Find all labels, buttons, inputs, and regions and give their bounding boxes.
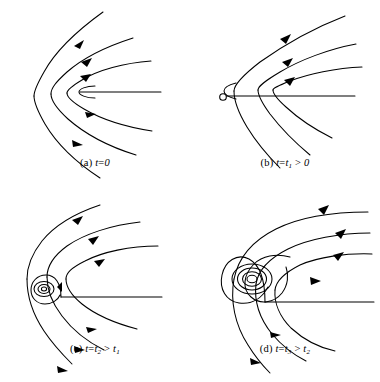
streamline-figure: (a) t=0 (b)	[0, 0, 380, 382]
panel-b-label: (b)	[261, 157, 274, 168]
streamline-outer-upper	[27, 205, 100, 279]
panel-d-time-sub: 3	[288, 348, 292, 356]
panel-c-relation: >	[104, 343, 110, 354]
streamline-3-upper	[273, 67, 362, 90]
arrow-vortex-outer-icon	[310, 277, 321, 285]
panel-c: (c) t=t2 > t1	[0, 191, 190, 382]
arrow-lower-inner-icon	[86, 327, 97, 333]
streamline-3-upper	[67, 61, 151, 93]
streamline-3-upper	[66, 246, 158, 279]
arrow-upper-outer-icon	[318, 205, 329, 215]
panel-d-relation: >	[294, 343, 300, 354]
arrow-lower-outer-icon	[72, 140, 83, 147]
arrow-upper-inner-icon	[94, 259, 105, 267]
streamline-3-lower	[66, 279, 137, 329]
panel-a-caption: (a) t=0	[0, 157, 190, 168]
panel-b: (b) t=t1 > 0	[190, 0, 380, 191]
streamline-2-upper	[258, 44, 356, 90]
streamline-3-upper	[275, 254, 372, 290]
panel-d-caption: (d) t=t3 > t2	[190, 343, 380, 356]
streamline-3-lower	[273, 90, 332, 138]
vortex-core	[247, 275, 257, 283]
panel-b-time-sub: 1	[289, 162, 293, 170]
panel-d-label: (d)	[260, 343, 273, 354]
panel-b-relation: >	[295, 157, 301, 168]
panel-a: (a) t=0	[0, 0, 190, 191]
arrow-lower-inner-icon	[270, 332, 281, 338]
panel-b-compare-value: 0	[304, 157, 309, 168]
vortex-loop-2	[34, 282, 54, 297]
arrow-upper-mid-icon	[88, 236, 99, 245]
arrow-vortex-icon	[57, 282, 62, 292]
panel-c-compare-sub: 1	[116, 348, 120, 356]
arrow-group	[280, 34, 295, 86]
panel-c-time-sub: 2	[98, 348, 102, 356]
arrow-upper-mid-icon	[81, 58, 92, 67]
panel-c-caption: (c) t=t2 > t1	[0, 343, 190, 356]
vortex-core	[41, 287, 46, 291]
arrow-upper-outer-icon	[72, 216, 83, 225]
streamline-3-lower	[67, 93, 152, 131]
panel-a-time-value: 0	[104, 157, 109, 168]
streamline-outer-upper	[234, 212, 368, 279]
panel-d: (d) t=t3 > t2	[190, 191, 380, 382]
vortex-loop-1	[31, 275, 61, 304]
panel-b-caption: (b) t=t1 > 0	[190, 157, 380, 170]
panel-d-compare-sub: 2	[306, 348, 310, 356]
separation-point-marker	[220, 94, 227, 101]
arrow-lower-outer-icon	[57, 366, 68, 373]
arrow-upper-outer-icon	[74, 40, 84, 49]
streamline-3-lower	[275, 290, 335, 351]
arrow-upper-inner-icon	[284, 77, 295, 86]
arrow-upper-inner-icon	[333, 252, 344, 261]
panel-c-label: (c)	[70, 343, 82, 354]
panel-a-label: (a)	[80, 157, 92, 168]
streamline-2-upper	[47, 222, 140, 277]
streamline-2-lower	[258, 90, 310, 155]
streamline-outer-upper	[34, 12, 103, 96]
streamline-2-upper	[256, 233, 370, 284]
vortex-loop-2	[245, 255, 290, 302]
